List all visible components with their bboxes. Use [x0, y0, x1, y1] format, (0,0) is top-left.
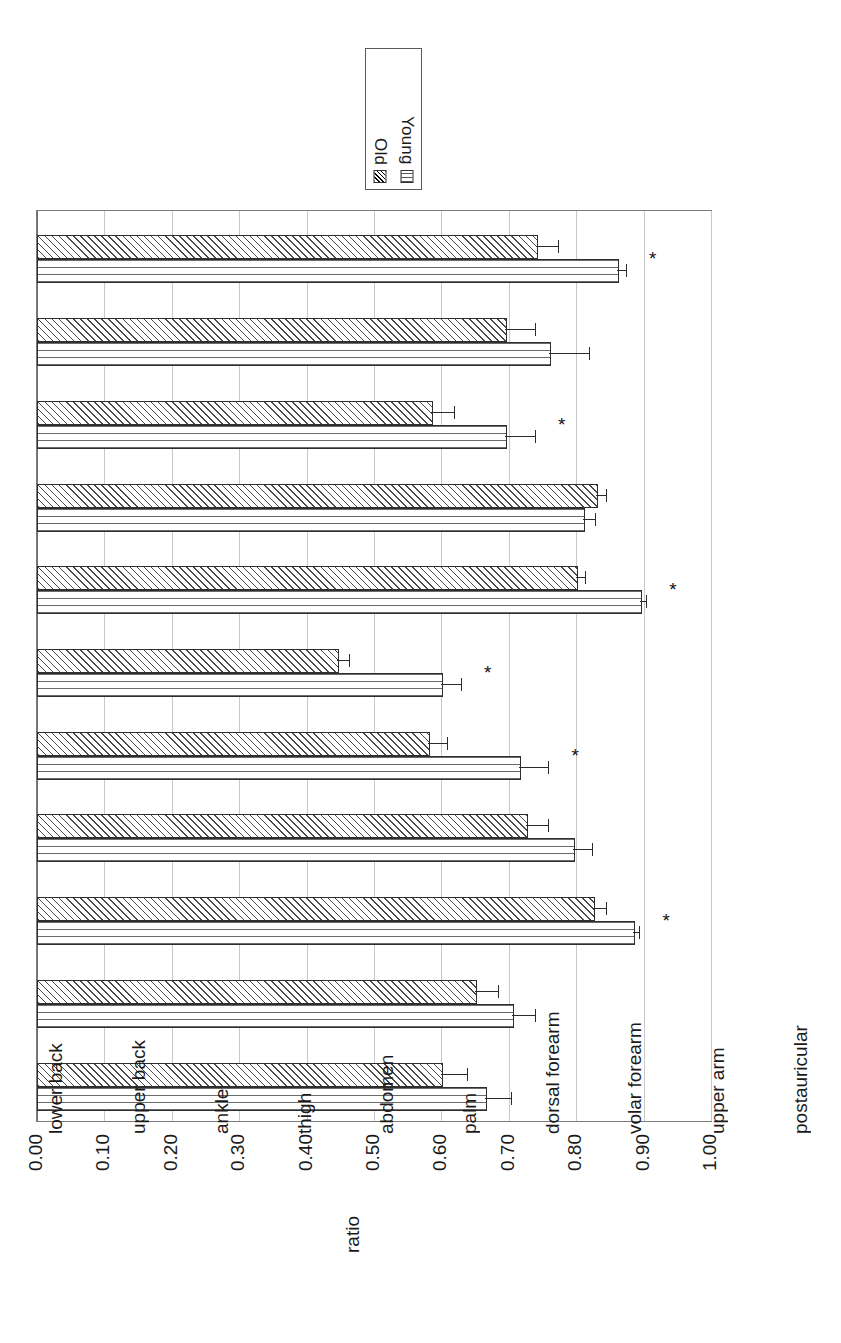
- value-tick-label-0.80: 0.80: [564, 1134, 586, 1171]
- error-bar-thigh-old: [596, 495, 606, 496]
- legend-label-old: Old: [370, 138, 390, 165]
- error-bar-abdomen-old: [576, 577, 586, 578]
- error-bar-postauricular-old: [475, 991, 499, 992]
- value-tick-label-0.70: 0.70: [497, 1134, 519, 1171]
- bar-volar-forearm-old: [37, 814, 528, 838]
- category-label-palm: palm: [459, 1093, 481, 1134]
- bar-palm-young: [37, 673, 443, 697]
- gridline-0.90: [644, 211, 645, 1121]
- bar-thigh-old: [37, 484, 598, 508]
- significance-marker-abdomen: *: [669, 580, 676, 599]
- category-label-dorsal-forearm: dorsal forearm: [542, 1012, 564, 1135]
- significance-marker-dorsal-forearm: *: [572, 745, 579, 764]
- error-bar-upper-back-young: [549, 353, 589, 354]
- legend-entry-young: Young: [394, 49, 422, 189]
- value-tick-label-0.30: 0.30: [227, 1134, 249, 1171]
- value-tick-label-0.10: 0.10: [92, 1134, 114, 1171]
- bar-ankle-old: [37, 401, 433, 425]
- category-label-abdomen: abdomen: [376, 1055, 398, 1134]
- bar-thigh-young: [37, 508, 585, 532]
- category-label-thigh: thigh: [294, 1093, 316, 1134]
- error-bar-upper-arm-young: [633, 932, 640, 933]
- significance-marker-palm: *: [484, 663, 491, 682]
- error-bar-forehead-old: [441, 1074, 468, 1075]
- value-tick-label-0.50: 0.50: [362, 1134, 384, 1171]
- bar-abdomen-old: [37, 566, 578, 590]
- category-label-ankle: ankle: [211, 1089, 233, 1134]
- legend-label-young: Young: [397, 116, 417, 165]
- bar-upper-back-young: [37, 342, 551, 366]
- bar-upper-arm-young: [37, 921, 635, 945]
- legend-label-wrap-old: Old: [366, 65, 394, 165]
- error-bar-lower-back-young: [617, 270, 627, 271]
- bar-volar-forearm-young: [37, 838, 575, 862]
- legend: Old Young: [365, 48, 422, 190]
- gridline-0.80: [576, 211, 577, 1121]
- bar-forehead-young: [37, 1087, 487, 1111]
- value-tick-label-0.20: 0.20: [160, 1134, 182, 1171]
- bar-upper-back-old: [37, 318, 507, 342]
- value-tick-label-0.60: 0.60: [429, 1134, 451, 1171]
- value-tick-label-0.40: 0.40: [295, 1134, 317, 1171]
- gridline-1.00: [711, 211, 712, 1121]
- error-bar-dorsal-forearm-young: [519, 767, 549, 768]
- bar-dorsal-forearm-young: [37, 756, 521, 780]
- bar-ankle-young: [37, 425, 507, 449]
- bar-dorsal-forearm-old: [37, 732, 430, 756]
- axis-title: ratio: [342, 1216, 364, 1253]
- bar-postauricular-young: [37, 1004, 514, 1028]
- error-bar-dorsal-forearm-old: [428, 743, 448, 744]
- bar-palm-old: [37, 649, 339, 673]
- error-bar-thigh-young: [583, 519, 596, 520]
- bar-postauricular-old: [37, 980, 477, 1004]
- error-bar-abdomen-young: [640, 601, 647, 602]
- category-label-postauricular: postauricular: [790, 1025, 812, 1134]
- bar-upper-arm-old: [37, 897, 595, 921]
- error-bar-upper-arm-old: [593, 908, 606, 909]
- significance-marker-upper-arm: *: [663, 911, 670, 930]
- error-bar-forehead-young: [485, 1098, 512, 1099]
- category-label-lower-back: lower back: [45, 1043, 67, 1134]
- significance-marker-ankle: *: [558, 414, 565, 433]
- error-bar-volar-forearm-young: [573, 849, 593, 850]
- error-bar-palm-young: [441, 684, 461, 685]
- bar-lower-back-old: [37, 235, 538, 259]
- legend-label-wrap-young: Young: [394, 65, 422, 165]
- plot-area: ******: [36, 210, 712, 1122]
- error-bar-lower-back-old: [536, 246, 560, 247]
- error-bar-volar-forearm-old: [526, 825, 550, 826]
- error-bar-ankle-old: [431, 412, 455, 413]
- error-bar-postauricular-young: [512, 1015, 536, 1016]
- category-label-volar-forearm: volar forearm: [624, 1022, 646, 1134]
- error-bar-ankle-young: [505, 436, 535, 437]
- bar-abdomen-young: [37, 590, 642, 614]
- value-tick-label-1.00: 1.00: [699, 1134, 721, 1171]
- bar-lower-back-young: [37, 259, 619, 283]
- significance-marker-lower-back: *: [649, 249, 656, 268]
- legend-swatch-young-icon: [401, 170, 414, 183]
- value-tick-label-0.00: 0.00: [25, 1134, 47, 1171]
- value-tick-label-0.90: 0.90: [632, 1134, 654, 1171]
- error-bar-upper-back-old: [505, 329, 535, 330]
- category-label-upper-back: upper back: [128, 1040, 150, 1134]
- legend-entry-old: Old: [366, 49, 394, 189]
- error-bar-palm-old: [337, 660, 350, 661]
- legend-swatch-old-icon: [373, 170, 386, 183]
- category-label-upper-arm: upper arm: [707, 1047, 729, 1134]
